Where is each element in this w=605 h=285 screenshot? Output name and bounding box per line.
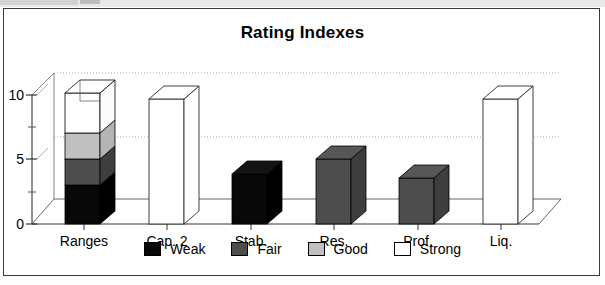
legend-swatch-strong xyxy=(394,242,411,256)
bar-cap2-front xyxy=(149,99,184,224)
y-axis-label-10: 10 xyxy=(0,87,24,103)
bar-res-side xyxy=(351,146,366,224)
bar-cap2 xyxy=(149,86,199,224)
legend-swatch-weak xyxy=(144,242,161,256)
legend-label-good: Good xyxy=(334,241,368,257)
legend-label-strong: Strong xyxy=(420,241,461,257)
bar-ranges xyxy=(65,80,115,224)
bar-ranges-seg-fair xyxy=(65,159,100,185)
y-axis-label-0: 0 xyxy=(0,216,24,232)
legend-item-good: Good xyxy=(308,241,368,257)
bar-liq-side xyxy=(518,86,533,224)
chart-frame: Rating Indexes xyxy=(3,8,600,276)
chart-plot-area: 10 5 0 Ranges Cap. 2 Stab. Res. Prof. Li… xyxy=(4,9,601,277)
bar-prof xyxy=(399,165,449,224)
bar-stab xyxy=(232,161,282,224)
y-axis-top-connector xyxy=(32,73,54,95)
legend-item-weak: Weak xyxy=(144,241,206,257)
bar-res-front xyxy=(316,159,351,224)
legend-swatch-fair xyxy=(231,242,248,256)
legend-item-fair: Fair xyxy=(231,241,281,257)
y-axis-label-5: 5 xyxy=(0,151,24,167)
bar-liq-front xyxy=(483,99,518,224)
legend-item-strong: Strong xyxy=(394,241,461,257)
bar-ranges-seg-weak xyxy=(65,185,100,224)
bar-stab-front xyxy=(232,174,267,224)
bar-ranges-seg-good xyxy=(65,133,100,159)
bar-prof-front xyxy=(399,178,434,224)
y-depth-tick-5 xyxy=(37,148,48,159)
bar-liq xyxy=(483,86,533,224)
y-depth-tick-10 xyxy=(37,84,48,95)
scan-artifact-nub-2 xyxy=(80,0,100,4)
chart-legend: Weak Fair Good Strong xyxy=(4,241,601,257)
screenshot-page: Rating Indexes xyxy=(0,0,605,285)
bar-cap2-side xyxy=(184,86,199,224)
legend-swatch-good xyxy=(308,242,325,256)
bar-ranges-seg-strong xyxy=(65,93,100,133)
floor-left-edge xyxy=(32,199,54,224)
legend-label-fair: Fair xyxy=(257,241,281,257)
floor-right-edge xyxy=(539,199,561,224)
legend-label-weak: Weak xyxy=(170,241,206,257)
scan-artifact-nub xyxy=(0,0,78,5)
bar-res xyxy=(316,146,366,224)
